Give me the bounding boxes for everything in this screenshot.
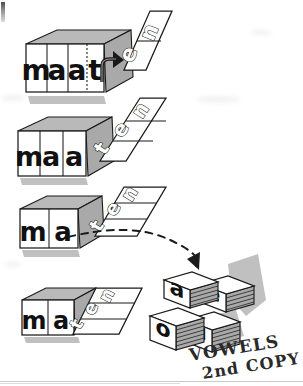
- row-3-group: m a t e n: [19, 182, 200, 270]
- tile-letter: a: [54, 217, 72, 247]
- paper-smudge: [4, 262, 22, 267]
- tile-letter: m: [15, 141, 43, 172]
- page-rule: [0, 381, 303, 382]
- paper-smudge: [0, 95, 26, 101]
- diagram-svg: .face { fill:#ffffff; stroke:#1a1a1a; st…: [0, 0, 303, 386]
- tile-letter: a: [65, 141, 83, 172]
- paper-smudge: [250, 30, 272, 35]
- row-2-group: m a a t e n: [15, 98, 166, 185]
- tile-letter: m: [21, 54, 50, 87]
- scan-edge-artifact: [1, 2, 5, 22]
- tile-letter: a: [48, 54, 67, 87]
- tile-letter: m: [19, 217, 46, 247]
- tile-letter: m: [21, 307, 46, 335]
- row-4-group: m a t e n: [21, 285, 142, 343]
- row-1-group: m a a t e n: [21, 11, 172, 104]
- figure-canvas: .face { fill:#ffffff; stroke:#1a1a1a; st…: [0, 0, 303, 386]
- page-rule-faint: [0, 383, 180, 384]
- tile-letter: t: [88, 54, 101, 87]
- tile-letter: a: [42, 141, 60, 172]
- vowel-stack-a: a: [164, 272, 218, 308]
- paper-smudge: [196, 96, 240, 103]
- tile-letter: a: [68, 54, 87, 87]
